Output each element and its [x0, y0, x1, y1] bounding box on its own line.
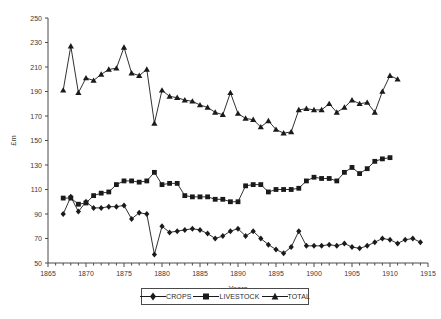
x-axis-tick-label: 1890	[230, 270, 246, 277]
chart-legend: CROPS LIVESTOCK TOTAL	[141, 288, 309, 305]
data-point-marker	[304, 179, 309, 184]
data-point-marker	[205, 194, 210, 199]
data-point-marker	[129, 179, 134, 184]
data-point-marker	[212, 109, 218, 114]
y-axis-tick-label: 70	[34, 235, 42, 242]
data-point-marker	[372, 159, 377, 164]
data-point-marker	[265, 118, 271, 123]
data-point-marker	[167, 181, 172, 186]
square-marker-icon	[193, 291, 219, 302]
data-point-marker	[365, 243, 370, 249]
data-point-marker	[334, 243, 339, 249]
data-point-marker	[228, 228, 233, 234]
data-point-marker	[251, 182, 256, 187]
x-axis-tick-label: 1905	[344, 270, 360, 277]
diamond-marker-icon	[140, 291, 166, 302]
data-point-marker	[175, 228, 180, 234]
data-point-marker	[274, 187, 279, 192]
data-point-marker	[159, 223, 164, 229]
y-axis-tick-label: 210	[30, 64, 42, 71]
data-point-marker	[235, 110, 241, 115]
data-point-marker	[334, 179, 339, 184]
data-point-marker	[129, 70, 135, 75]
data-point-marker	[113, 65, 119, 70]
x-axis-tick-label: 1910	[382, 270, 398, 277]
legend-item-crops: CROPS	[139, 291, 192, 302]
series-crops	[61, 194, 423, 258]
data-point-marker	[122, 179, 127, 184]
data-point-marker	[84, 201, 89, 206]
data-point-marker	[326, 101, 332, 106]
data-point-marker	[137, 210, 142, 216]
data-point-marker	[137, 180, 142, 185]
data-point-marker	[303, 106, 309, 111]
data-point-marker	[114, 182, 119, 187]
data-point-marker	[182, 193, 187, 198]
data-point-marker	[289, 187, 294, 192]
data-point-marker	[76, 202, 81, 207]
y-axis-title: £m	[9, 135, 18, 145]
data-point-marker	[98, 71, 104, 76]
data-point-marker	[311, 243, 316, 249]
legend-label-livestock: LIVESTOCK	[219, 293, 259, 300]
x-axis-tick-label: 1865	[40, 270, 56, 277]
data-point-marker	[357, 171, 362, 176]
data-point-marker	[236, 199, 241, 204]
data-point-marker	[61, 196, 66, 201]
data-point-marker	[121, 202, 126, 208]
y-axis-tick-label: 130	[30, 162, 42, 169]
data-point-marker	[190, 194, 195, 199]
data-point-marker	[266, 190, 271, 195]
x-axis-tick-label: 1885	[192, 270, 208, 277]
legend-item-total: TOTAL	[261, 291, 311, 302]
y-axis-tick-label: 230	[30, 39, 42, 46]
data-point-marker	[144, 211, 149, 217]
data-point-marker	[197, 102, 203, 107]
data-point-marker	[387, 72, 393, 77]
data-point-marker	[220, 197, 225, 202]
legend-label-total: TOTAL	[288, 293, 310, 300]
y-axis-tick-label: 150	[30, 137, 42, 144]
data-point-marker	[198, 194, 203, 199]
data-point-marker	[213, 236, 218, 242]
data-point-marker	[243, 115, 249, 120]
chart-container: 5070901101301501701902102302501865187018…	[0, 0, 441, 319]
data-point-marker	[220, 233, 225, 239]
data-point-marker	[365, 166, 370, 171]
data-point-marker	[266, 242, 271, 248]
data-point-marker	[312, 175, 317, 180]
triangle-marker-icon	[262, 291, 288, 302]
data-point-marker	[83, 75, 89, 80]
data-point-marker	[114, 204, 119, 210]
legend-item-livestock: LIVESTOCK	[192, 291, 260, 302]
data-point-marker	[68, 43, 74, 48]
data-point-marker	[160, 182, 165, 187]
data-point-marker	[197, 227, 202, 233]
data-point-marker	[342, 240, 347, 246]
data-point-marker	[349, 97, 355, 102]
data-point-marker	[159, 87, 165, 92]
data-point-marker	[372, 239, 377, 245]
data-point-marker	[342, 170, 347, 175]
data-point-marker	[129, 216, 134, 222]
data-point-marker	[395, 76, 401, 81]
y-axis-tick-label: 110	[31, 186, 42, 193]
data-point-marker	[327, 242, 332, 248]
data-point-marker	[395, 240, 400, 246]
data-point-marker	[190, 226, 195, 232]
y-axis-tick-label: 50	[34, 260, 42, 267]
data-point-marker	[121, 44, 127, 49]
line-chart: 5070901101301501701902102302501865187018…	[0, 0, 441, 319]
data-point-marker	[410, 236, 415, 242]
data-point-marker	[182, 227, 187, 233]
data-point-marker	[288, 129, 294, 134]
data-point-marker	[379, 88, 385, 93]
data-point-marker	[151, 120, 157, 125]
data-point-marker	[175, 181, 180, 186]
data-point-marker	[319, 243, 324, 249]
data-point-marker	[304, 243, 309, 249]
data-point-marker	[106, 204, 111, 210]
data-point-marker	[91, 193, 96, 198]
data-point-marker	[213, 197, 218, 202]
data-point-marker	[364, 99, 370, 104]
